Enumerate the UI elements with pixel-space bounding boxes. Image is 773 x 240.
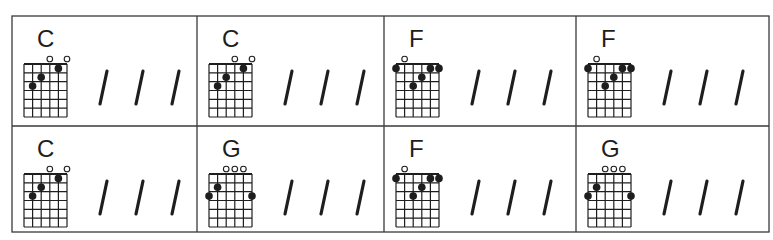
- finger-dot-icon: [584, 65, 592, 73]
- finger-dot-icon: [392, 65, 400, 73]
- beat-slash-icon: [357, 181, 364, 214]
- chord-diagram-c: [24, 166, 70, 227]
- beat-slash-icon: [136, 181, 143, 214]
- chord-diagram-g: [205, 166, 256, 227]
- finger-dot-icon: [248, 192, 256, 200]
- open-string-icon: [64, 166, 70, 172]
- finger-dot-icon: [205, 192, 213, 200]
- beat-slash-icon: [544, 181, 551, 214]
- frame-border: [12, 16, 769, 232]
- measure: F: [584, 25, 743, 117]
- finger-dot-icon: [427, 175, 435, 183]
- beat-slash-icon: [736, 181, 743, 214]
- chord-name: C: [37, 135, 54, 162]
- beat-slash-icon: [321, 71, 328, 104]
- beat-slash-icon: [321, 181, 328, 214]
- open-string-icon: [64, 56, 70, 62]
- beat-slash-icon: [172, 71, 179, 104]
- chord-diagram-c: [209, 56, 255, 117]
- finger-dot-icon: [409, 192, 417, 200]
- open-string-icon: [402, 166, 408, 172]
- beat-slash-icon: [100, 71, 107, 104]
- finger-dot-icon: [619, 65, 627, 73]
- beat-slash-icon: [285, 181, 292, 214]
- beat-slash-icon: [508, 181, 515, 214]
- chord-name: C: [222, 25, 239, 52]
- finger-dot-icon: [29, 82, 37, 90]
- beat-slash-icon: [136, 71, 143, 104]
- finger-dot-icon: [392, 175, 400, 183]
- chord-name: C: [37, 25, 54, 52]
- finger-dot-icon: [409, 82, 417, 90]
- finger-dot-icon: [55, 65, 63, 73]
- finger-dot-icon: [610, 73, 618, 81]
- open-string-icon: [232, 166, 238, 172]
- finger-dot-icon: [427, 65, 435, 73]
- measure: F: [392, 135, 551, 227]
- beat-slash-icon: [664, 181, 671, 214]
- finger-dot-icon: [29, 192, 37, 200]
- open-string-icon: [402, 56, 408, 62]
- beat-slash-icon: [700, 181, 707, 214]
- measure: F: [392, 25, 551, 117]
- finger-dot-icon: [240, 65, 248, 73]
- measure: G: [584, 135, 743, 227]
- finger-dot-icon: [601, 82, 609, 90]
- finger-dot-icon: [214, 183, 222, 191]
- measure: C: [209, 25, 364, 117]
- chord-diagram-f: [584, 56, 635, 117]
- chord-name: G: [601, 135, 620, 162]
- chord-diagram-f: [392, 56, 443, 117]
- measure-grid: [12, 16, 769, 232]
- finger-dot-icon: [584, 192, 592, 200]
- finger-dot-icon: [627, 192, 635, 200]
- chord-name: F: [409, 135, 424, 162]
- open-string-icon: [232, 56, 238, 62]
- beat-slash-icon: [472, 181, 479, 214]
- open-string-icon: [241, 166, 247, 172]
- finger-dot-icon: [418, 73, 426, 81]
- beat-slash-icon: [544, 71, 551, 104]
- open-string-icon: [249, 56, 255, 62]
- measure: C: [24, 25, 179, 117]
- finger-dot-icon: [222, 73, 230, 81]
- finger-dot-icon: [418, 183, 426, 191]
- open-string-icon: [594, 56, 600, 62]
- beat-slash-icon: [664, 71, 671, 104]
- finger-dot-icon: [214, 82, 222, 90]
- finger-dot-icon: [593, 183, 601, 191]
- beat-slash-icon: [285, 71, 292, 104]
- measure: C: [24, 135, 179, 227]
- open-string-icon: [223, 166, 229, 172]
- chord-diagram-c: [24, 56, 70, 117]
- chord-name: F: [409, 25, 424, 52]
- chord-chart: CCFFCGFG: [0, 0, 773, 240]
- beat-slash-icon: [508, 71, 515, 104]
- measure: G: [205, 135, 364, 227]
- open-string-icon: [47, 56, 53, 62]
- finger-dot-icon: [435, 175, 443, 183]
- beat-slash-icon: [736, 71, 743, 104]
- open-string-icon: [620, 166, 626, 172]
- open-string-icon: [602, 166, 608, 172]
- chord-name: G: [222, 135, 241, 162]
- finger-dot-icon: [627, 65, 635, 73]
- finger-dot-icon: [37, 73, 45, 81]
- finger-dot-icon: [435, 65, 443, 73]
- beat-slash-icon: [700, 71, 707, 104]
- chord-name: F: [601, 25, 616, 52]
- chord-diagram-f: [392, 166, 443, 227]
- beat-slash-icon: [357, 71, 364, 104]
- finger-dot-icon: [55, 175, 63, 183]
- open-string-icon: [611, 166, 617, 172]
- finger-dot-icon: [37, 183, 45, 191]
- chord-diagram-g: [584, 166, 635, 227]
- open-string-icon: [47, 166, 53, 172]
- beat-slash-icon: [472, 71, 479, 104]
- beat-slash-icon: [100, 181, 107, 214]
- beat-slash-icon: [172, 181, 179, 214]
